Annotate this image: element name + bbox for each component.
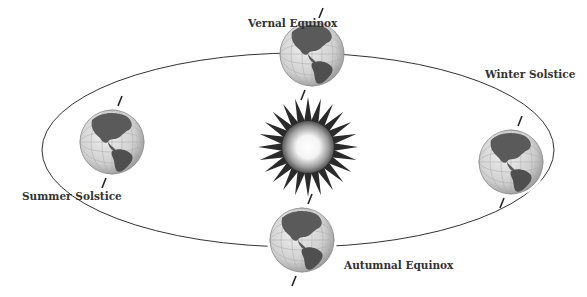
globe-icon-autumnal-equinox [267, 194, 337, 286]
globe-icon-winter-solstice [476, 116, 546, 208]
label-winter-solstice: Winter Solstice [485, 68, 575, 80]
sun-icon [258, 97, 358, 197]
orbit-diagram [0, 0, 587, 297]
label-autumnal-equinox: Autumnal Equinox [344, 259, 453, 271]
globe-icon-summer-solstice [77, 96, 147, 188]
label-summer-solstice: Summer Solstice [22, 190, 122, 202]
label-vernal-equinox: Vernal Equinox [248, 17, 337, 29]
